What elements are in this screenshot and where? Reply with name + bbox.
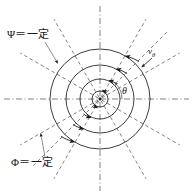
theta-angle-label: θ xyxy=(122,86,127,96)
equipotential-line xyxy=(101,101,146,179)
equipotential-line xyxy=(54,101,99,179)
equipotential-line xyxy=(20,100,98,145)
phi-leader-line xyxy=(41,135,45,157)
v-theta-leader-line xyxy=(143,58,152,66)
equipotential-line xyxy=(54,19,99,97)
psi-constant-label: Ψ＝一定 xyxy=(7,29,49,40)
polar-flow-diagram: Ψ＝一定 Φ＝一定 vθ θ xyxy=(0,0,193,194)
theta-reference-ray xyxy=(102,32,167,97)
velocity-arrow xyxy=(128,57,140,62)
psi-leader-line xyxy=(45,42,57,62)
origin-point xyxy=(99,98,102,101)
equipotential-line xyxy=(20,53,98,98)
v-theta-label: vθ xyxy=(148,47,155,58)
equipotential-line xyxy=(102,53,180,98)
v-theta-subscript: θ xyxy=(152,51,155,58)
equipotential-line xyxy=(102,100,180,145)
phi-constant-label: Φ＝一定 xyxy=(11,157,53,168)
velocity-arrow xyxy=(61,137,73,142)
